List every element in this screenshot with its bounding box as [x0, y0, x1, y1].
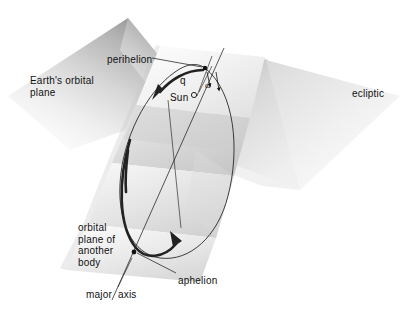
- diagram-canvas: Earth's orbital plane ecliptic perihelio…: [0, 0, 407, 317]
- label-aphelion: aphelion: [178, 275, 217, 287]
- label-argument-of-perihelion-omega: ω: [205, 80, 211, 92]
- orbital-elements-illustration: [0, 0, 407, 317]
- label-perihelion: perihelion: [107, 54, 152, 66]
- label-perihelion-distance-q: q: [180, 75, 186, 87]
- label-major-axis: major axis: [86, 289, 137, 301]
- label-ecliptic: ecliptic: [352, 88, 384, 100]
- label-sun: Sun: [170, 92, 188, 104]
- label-orbital-plane-of-another-body: orbital plane of another body: [78, 222, 115, 268]
- label-earth-orbital-plane: Earth's orbital plane: [30, 75, 94, 98]
